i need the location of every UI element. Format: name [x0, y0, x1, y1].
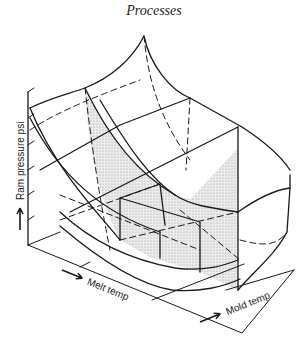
right-arrow-icon	[61, 267, 84, 281]
surface-diagram: Ram pressure psi Melt temp Mold temp	[0, 0, 308, 337]
melt-temp-label: Melt temp	[60, 265, 131, 302]
svg-text:Melt temp: Melt temp	[86, 276, 131, 303]
svg-text:Mold temp: Mold temp	[224, 289, 272, 317]
mold-temp-label: Mold temp	[198, 289, 272, 327]
vertical-axis-label: Ram pressure psi	[15, 122, 26, 230]
svg-text:Ram pressure psi: Ram pressure psi	[15, 122, 26, 200]
surface-top-edge	[30, 36, 290, 170]
up-arrow-icon	[17, 208, 23, 230]
